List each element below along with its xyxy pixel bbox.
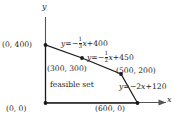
eq2-relation: = [91, 53, 98, 62]
feasible-set-label: feasible set [50, 81, 94, 89]
eq1-sign: − [72, 39, 78, 48]
vertex-label-0-400: (0, 400) [2, 41, 32, 49]
feasible-set-figure: y x (0, 400) (300, 300) (500, 200) (600,… [0, 0, 190, 123]
eq3-relation: = [123, 82, 130, 91]
eq2-constant: 450 [119, 53, 134, 62]
vertex-label-500-200: (500, 200) [116, 67, 156, 75]
eq2-sign: − [98, 53, 104, 62]
vertex-dot-0-0 [44, 101, 48, 105]
line-equation-2: y=−12x+450 [87, 51, 134, 64]
x-axis-arrowhead [159, 99, 167, 105]
vertex-dot-600-0 [136, 101, 140, 105]
vertex-label-600-0: (600, 0) [95, 105, 125, 113]
vertex-label-300-300: (300, 300) [47, 65, 87, 73]
y-axis-label: y [42, 3, 47, 11]
x-axis-label: x [167, 96, 172, 104]
line-equation-3: y=−2x+120 [119, 83, 166, 91]
eq3-plus: + [145, 82, 152, 91]
eq1-constant: 400 [93, 39, 108, 48]
vertex-dot-300-300 [80, 56, 84, 60]
eq3-constant: 120 [152, 82, 167, 91]
line-equation-1: y=−13x+400 [61, 37, 108, 50]
vertex-label-0-0: (0, 0) [6, 105, 26, 113]
eq1-relation: = [65, 39, 72, 48]
vertex-dot-0-400 [44, 43, 48, 47]
